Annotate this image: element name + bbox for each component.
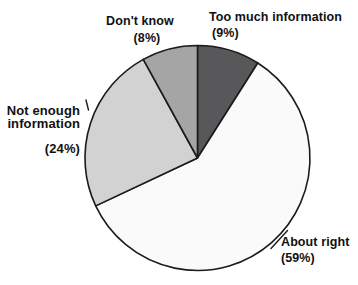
- slice-label-too-much-pct: (9%): [209, 26, 342, 42]
- slice-label-not-enough-pct: (24%): [0, 143, 80, 156]
- slice-label-not-enough-information: Not enough information (24%): [0, 92, 80, 169]
- pie-chart-figure: Don't know (8%) Too much information (9%…: [0, 0, 358, 285]
- slice-label-not-enough-text: Not enough information: [0, 105, 80, 131]
- slice-label-too-much-information: Too much information (9%): [209, 10, 342, 41]
- slice-label-about-right: About right (59%): [281, 235, 349, 266]
- slice-label-dont-know-pct: (8%): [84, 30, 196, 47]
- slice-label-dont-know: Don't know (8%): [84, 13, 196, 47]
- not-enough-leader-line: [86, 100, 89, 110]
- pie-slices-group: [85, 45, 310, 270]
- slice-label-about-right-pct: (59%): [281, 251, 349, 267]
- slice-label-dont-know-text: Don't know: [84, 13, 196, 30]
- slice-label-about-right-text: About right: [281, 235, 349, 251]
- slice-label-too-much-text: Too much information: [209, 10, 342, 26]
